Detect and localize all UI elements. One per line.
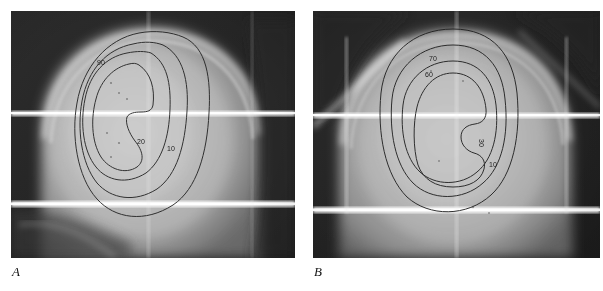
isodose-label-30: 30 [478, 139, 485, 147]
isodose-label-20: 20 [137, 138, 145, 145]
panel-b-film: 70 60 30 10 [313, 11, 600, 258]
panel-b-radiograph: 70 60 30 10 [313, 11, 600, 258]
panel-a-radiograph: 90 20 10 [11, 11, 295, 258]
isodose-label-70: 70 [429, 55, 437, 62]
field-border-line-right [565, 37, 568, 213]
field-border-line-left [345, 37, 348, 213]
radiograph-figure: 90 20 10 [0, 0, 603, 291]
isodose-label-60: 60 [425, 71, 433, 78]
isodose-label-10: 10 [489, 161, 497, 168]
isodose-label-10: 10 [167, 145, 175, 152]
field-border-line-midline [455, 11, 459, 258]
isodose-label-90: 90 [97, 59, 105, 66]
panel-label-a: A [12, 264, 20, 280]
panel-a-film: 90 20 10 [11, 11, 295, 258]
panel-label-b: B [314, 264, 322, 280]
field-border-line-vertical [147, 11, 150, 258]
